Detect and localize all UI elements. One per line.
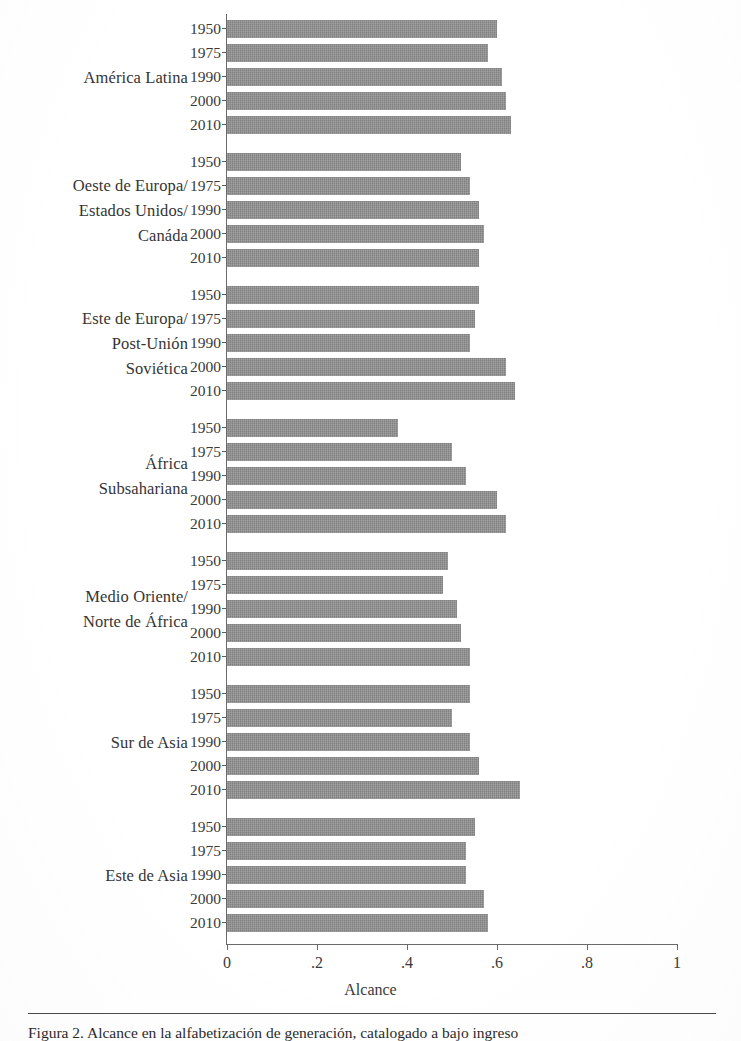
bar	[227, 709, 452, 727]
group-label-line: Post-Unión	[0, 331, 188, 356]
bar	[227, 733, 470, 751]
bar-row: 2000	[0, 754, 741, 778]
x-axis-tick-label: 1	[657, 954, 697, 972]
year-tick-label: 2000	[190, 621, 221, 645]
bar	[227, 467, 466, 485]
bar	[227, 382, 515, 400]
group-label: Oeste de Europa/Estados Unidos/Canáda	[0, 173, 188, 248]
group-label-line: Estados Unidos/	[0, 198, 188, 223]
year-tick-label: 2010	[190, 379, 221, 403]
year-tick-label: 2010	[190, 512, 221, 536]
bar	[227, 443, 452, 461]
year-tick-label: 1990	[190, 331, 221, 355]
bar-group: 19501975199020002010ÁfricaSubsahariana	[0, 416, 741, 536]
bar	[227, 624, 461, 642]
bar	[227, 68, 502, 86]
bar	[227, 576, 443, 594]
year-tick-label: 1950	[190, 549, 221, 573]
bar	[227, 44, 488, 62]
bar-group: 19501975199020002010Este de Europa/Post-…	[0, 283, 741, 403]
year-tick-label: 1990	[190, 198, 221, 222]
group-label: Sur de Asia	[0, 730, 188, 755]
bar	[227, 600, 457, 618]
bar	[227, 92, 506, 110]
x-axis-tick-label: .4	[387, 954, 427, 972]
group-label-line: África	[0, 451, 188, 476]
year-tick-label: 1990	[190, 863, 221, 887]
x-axis-tick	[407, 944, 408, 950]
year-tick-label: 1950	[190, 682, 221, 706]
bar-row: 2010	[0, 645, 741, 669]
bar-row: 2010	[0, 512, 741, 536]
year-tick-label: 1975	[190, 839, 221, 863]
bar	[227, 116, 511, 134]
bar-group: 19501975199020002010Este de Asia	[0, 815, 741, 935]
bar	[227, 648, 470, 666]
year-tick-label: 1950	[190, 17, 221, 41]
x-axis-tick	[317, 944, 318, 950]
group-label-line: Subsahariana	[0, 476, 188, 501]
bar	[227, 842, 466, 860]
figure-caption: Figura 2. Alcance en la alfabetización d…	[28, 1022, 718, 1041]
bar-row: 1975	[0, 41, 741, 65]
x-axis-tick-label: .8	[567, 954, 607, 972]
group-label-line: América Latina	[0, 65, 188, 90]
year-tick-label: 2000	[190, 222, 221, 246]
bar	[227, 552, 448, 570]
bar	[227, 866, 466, 884]
bar-row: 2010	[0, 113, 741, 137]
bar-group: 19501975199020002010Medio Oriente/Norte …	[0, 549, 741, 669]
bar	[227, 890, 484, 908]
group-label: Este de Europa/Post-UniónSoviética	[0, 306, 188, 381]
x-axis-tick	[677, 944, 678, 950]
bar	[227, 757, 479, 775]
group-label: ÁfricaSubsahariana	[0, 451, 188, 501]
bar-row: 2010	[0, 246, 741, 270]
bar-row: 1950	[0, 283, 741, 307]
year-tick-label: 2010	[190, 113, 221, 137]
x-axis-tick-label: 0	[207, 954, 247, 972]
x-axis-line	[226, 944, 678, 945]
figure-container: 19501975199020002010América Latina195019…	[0, 0, 741, 1041]
year-tick-label: 2000	[190, 754, 221, 778]
year-tick-label: 2000	[190, 488, 221, 512]
year-tick-label: 1975	[190, 41, 221, 65]
bar-chart-plot-area: 19501975199020002010América Latina195019…	[0, 0, 741, 960]
year-tick-label: 1975	[190, 573, 221, 597]
year-tick-label: 2010	[190, 246, 221, 270]
bar-row: 2010	[0, 911, 741, 935]
y-axis-line	[226, 14, 227, 944]
bar	[227, 310, 475, 328]
bar	[227, 914, 488, 932]
bar-row: 2010	[0, 778, 741, 802]
x-axis-tick-label: .6	[477, 954, 517, 972]
caption-divider-rule	[28, 1013, 716, 1014]
year-tick-label: 1975	[190, 174, 221, 198]
bar-row: 2010	[0, 379, 741, 403]
group-label-line: Medio Oriente/	[0, 584, 188, 609]
bar	[227, 20, 497, 38]
year-tick-label: 1950	[190, 815, 221, 839]
bar-group: 19501975199020002010América Latina	[0, 17, 741, 137]
year-tick-label: 2010	[190, 645, 221, 669]
group-label: Este de Asia	[0, 863, 188, 888]
x-axis-tick	[497, 944, 498, 950]
year-tick-label: 1990	[190, 65, 221, 89]
year-tick-label: 1990	[190, 597, 221, 621]
bar-row: 1950	[0, 416, 741, 440]
bar-row: 1950	[0, 150, 741, 174]
bar-row: 1975	[0, 706, 741, 730]
bar	[227, 781, 520, 799]
x-axis-tick-label: .2	[297, 954, 337, 972]
year-tick-label: 1975	[190, 706, 221, 730]
group-label-line: Sur de Asia	[0, 730, 188, 755]
bar	[227, 491, 497, 509]
bar	[227, 685, 470, 703]
bar	[227, 419, 398, 437]
group-label-line: Canáda	[0, 223, 188, 248]
year-tick-label: 2000	[190, 89, 221, 113]
bar	[227, 334, 470, 352]
year-tick-label: 2000	[190, 355, 221, 379]
bar	[227, 225, 484, 243]
bar-row: 1950	[0, 815, 741, 839]
